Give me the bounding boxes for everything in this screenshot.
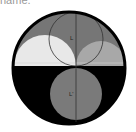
circle-diagram: L L' (0, 0, 136, 132)
bottom-circle-label: L' (69, 91, 73, 97)
